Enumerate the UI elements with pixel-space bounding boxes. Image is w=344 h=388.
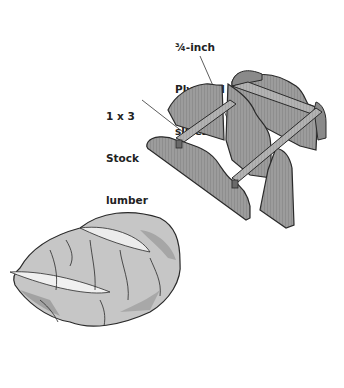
cabbage-illustration (10, 213, 180, 327)
slot-notch-left (176, 140, 182, 148)
diagram-canvas: ¾-inch Plywood slices 1 x 3 Stock lumber (0, 0, 344, 388)
slot-notch-right (232, 180, 238, 188)
rack-illustration (0, 0, 344, 388)
